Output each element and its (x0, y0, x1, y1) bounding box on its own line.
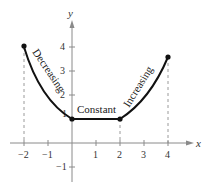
y-axis-arrow-icon (70, 20, 75, 28)
y-axis (69, 24, 75, 182)
x-tick-label: −2 (18, 149, 29, 160)
y-tick-label: −1 (56, 161, 67, 172)
x-axis (10, 140, 190, 146)
x-axis-arrow-icon (186, 141, 194, 146)
y-tick-label: 3 (60, 65, 65, 76)
x-tick-label: 4 (165, 149, 170, 160)
point-neg2-4 (21, 43, 26, 48)
constant-label: Constant (77, 103, 116, 115)
y-tick-label: 4 (60, 41, 65, 52)
y-axis-label: y (67, 7, 73, 19)
chart-canvas: x y −2 −1 1 2 3 4 4 3 2 1 −1 Decreasing … (0, 0, 209, 189)
function-graph: x y −2 −1 1 2 3 4 4 3 2 1 −1 Decreasing … (0, 0, 209, 189)
x-axis-label: x (195, 137, 201, 149)
x-tick-label: −1 (42, 149, 53, 160)
x-tick-label: 2 (117, 149, 122, 160)
point-0-1 (69, 116, 74, 121)
x-tick-label: 3 (141, 149, 146, 160)
point-4-3-6 (165, 54, 170, 59)
point-2-1 (117, 116, 122, 121)
x-tick-label: 1 (93, 149, 98, 160)
increasing-label: Increasing (121, 63, 156, 109)
